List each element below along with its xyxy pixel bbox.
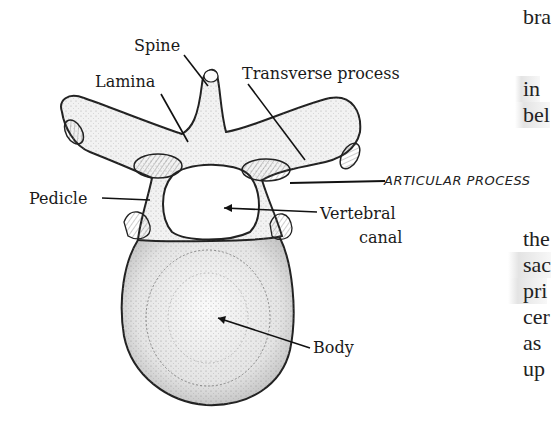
textbook-page: Spine Lamina Transverse process Pedicle … <box>0 0 552 424</box>
side-text-line: in <box>515 76 540 102</box>
vertebral-arch <box>61 70 364 242</box>
label-spine: Spine <box>134 36 180 55</box>
side-text-line: sac <box>508 252 551 278</box>
side-text-line: pri <box>508 278 547 304</box>
label-articular-process-handwritten: ARTICULAR PROCESS <box>383 173 531 188</box>
pedicle-leader-line <box>102 198 150 200</box>
vertebra-diagram: Spine Lamina Transverse process Pedicle … <box>0 0 552 424</box>
side-text-line: as <box>523 330 541 356</box>
vertebral-body <box>122 230 294 405</box>
side-text-line: the <box>523 226 550 252</box>
label-body: Body <box>313 338 354 357</box>
label-canal: canal <box>359 228 402 247</box>
spine-leader-line <box>184 55 208 86</box>
side-text-line: cer <box>523 304 550 330</box>
articular-process-leader-line <box>290 181 385 183</box>
label-pedicle: Pedicle <box>29 189 87 208</box>
label-vertebral: Vertebral <box>319 204 396 223</box>
side-text-line: bel <box>515 102 550 128</box>
label-lamina: Lamina <box>95 72 156 91</box>
side-text-line: bra <box>523 4 551 30</box>
side-text-line: up <box>523 356 545 382</box>
label-transverse-process: Transverse process <box>242 64 400 83</box>
